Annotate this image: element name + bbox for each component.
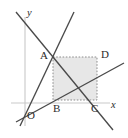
point-label-D: D [101, 49, 109, 60]
figure-canvas [0, 0, 128, 138]
origin-label: O [27, 110, 35, 121]
point-label-B: B [53, 103, 60, 114]
y-axis-label: y [27, 8, 32, 19]
x-axis-label: x [111, 100, 116, 111]
point-label-A: A [40, 50, 48, 61]
geometry-figure: A B C D O x y [0, 0, 128, 138]
rectangle-ABCD-fill [53, 57, 97, 100]
point-label-C: C [91, 103, 98, 114]
